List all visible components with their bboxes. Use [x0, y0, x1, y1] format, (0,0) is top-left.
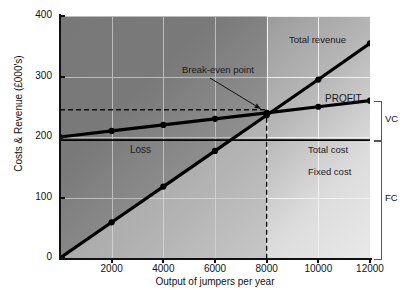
- y-axis-title: Costs & Revenue (£000's): [13, 44, 24, 184]
- x-axis-tick-label: 8000: [241, 263, 293, 274]
- x-axis-tick-label: 2000: [86, 263, 138, 274]
- break-even-leader-line: [210, 78, 261, 109]
- x-axis-tick-label: 12000: [344, 263, 396, 274]
- x-axis-tick-label: 6000: [189, 263, 241, 274]
- break-even-point-label: Break-even point: [182, 64, 254, 75]
- y-axis-tick-label: 0: [18, 251, 52, 262]
- y-axis-tick: [59, 257, 65, 259]
- total-cost-label: Total cost: [308, 144, 348, 155]
- fixed-cost-bracket: [374, 140, 382, 260]
- data-point-marker: [109, 219, 115, 225]
- x-axis-tick-label: 4000: [137, 263, 189, 274]
- y-axis-tick-label: 100: [18, 191, 52, 202]
- data-point-marker: [212, 148, 218, 154]
- data-point-marker: [160, 184, 166, 190]
- fixed-cost-label: Fixed cost: [308, 166, 351, 177]
- y-axis-tick: [59, 136, 65, 138]
- data-point-marker: [367, 98, 370, 104]
- data-point-marker: [264, 110, 270, 116]
- fixed-cost-bracket-label: FC: [385, 192, 398, 203]
- total-revenue-label: Total revenue: [289, 34, 346, 45]
- data-point-marker: [315, 104, 321, 110]
- y-axis-tick: [59, 76, 65, 78]
- variable-cost-bracket-label: VC: [385, 113, 398, 124]
- data-point-marker: [160, 122, 166, 128]
- variable-cost-bracket: [374, 101, 382, 142]
- y-axis-tick: [59, 15, 65, 17]
- break-even-chart: Break-even point PROFIT Loss Total reven…: [0, 0, 409, 290]
- plot-area: Break-even point PROFIT Loss Total reven…: [60, 16, 370, 258]
- profit-region-label: PROFIT: [325, 93, 362, 104]
- data-point-marker: [315, 76, 321, 82]
- series-layer: [60, 16, 370, 258]
- loss-region-label: Loss: [130, 144, 151, 155]
- y-axis-tick-label: 400: [18, 9, 52, 20]
- y-axis-tick: [59, 197, 65, 199]
- break-even-arrowhead: [254, 103, 260, 108]
- data-point-marker: [109, 128, 115, 134]
- x-axis-title: Output of jumpers per year: [60, 276, 370, 287]
- x-axis-tick-label: 10000: [292, 263, 344, 274]
- data-point-marker: [212, 116, 218, 122]
